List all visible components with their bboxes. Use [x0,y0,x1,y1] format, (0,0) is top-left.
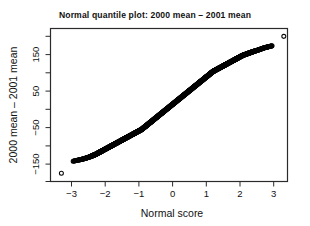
x-axis: −3 −2 −1 0 1 2 3 Normal score [66,182,276,220]
y-tick-label-150: 150 [30,47,41,63]
x-tick-label-neg1: −1 [133,188,144,199]
y-tick-label-neg50: −50 [30,120,41,136]
y-tick-label-neg150: −150 [30,153,41,174]
x-tick-label-3: 3 [271,188,276,199]
y-axis: 150 50 −50 −150 2000 mean – 2001 mean [7,36,51,181]
plot-canvas: Normal quantile plot: 2000 mean – 2001 m… [0,0,310,226]
x-tick-label-neg3: −3 [66,188,77,199]
data-point [59,171,63,175]
x-axis-title: Normal score [141,207,204,219]
data-points-layer [59,34,285,175]
y-axis-title: 2000 mean – 2001 mean [7,46,19,163]
x-tick-label-1: 1 [204,188,209,199]
x-tick-label-neg2: −2 [100,188,111,199]
chart-title: Normal quantile plot: 2000 mean – 2001 m… [59,10,251,20]
normal-quantile-plot-figure: Normal quantile plot: 2000 mean – 2001 m… [0,0,310,226]
x-tick-label-0: 0 [170,188,175,199]
x-tick-label-2: 2 [237,188,242,199]
data-point [282,34,286,38]
y-tick-label-50: 50 [30,86,41,97]
